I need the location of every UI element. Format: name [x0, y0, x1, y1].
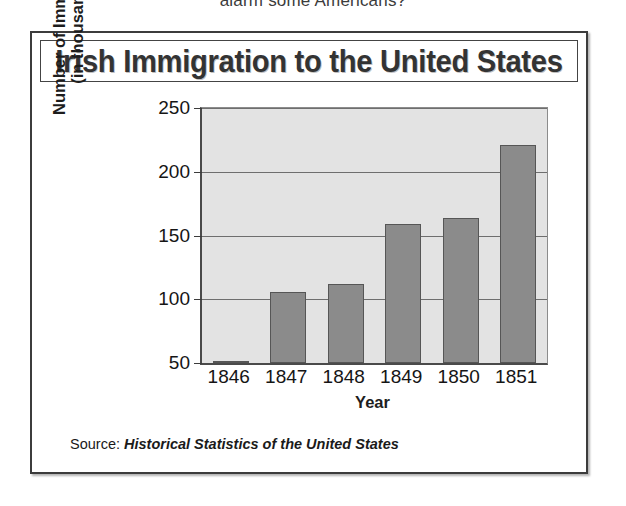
bar [270, 292, 306, 363]
source-title: Historical Statistics of the United Stat… [124, 436, 399, 452]
bar [213, 361, 249, 363]
y-axis-tick-label: 200 [158, 161, 190, 183]
x-axis-title: Year [200, 393, 545, 412]
bar [385, 224, 421, 363]
bar [443, 218, 479, 363]
y-axis-tick-label: 150 [158, 225, 190, 247]
y-axis-tick-mark [194, 172, 202, 173]
y-axis-tick-mark [194, 363, 202, 364]
y-axis-tick-mark [194, 236, 202, 237]
y-axis-tick-label: 50 [169, 352, 190, 374]
bar-series [202, 108, 547, 363]
bar [500, 145, 536, 363]
chart-title: Irish Immigration to the United States [55, 46, 562, 77]
source-label: Source: [70, 436, 120, 452]
clipped-page-text-line: alarm some Americans? [0, 0, 626, 11]
plot-area: 50100150200250 [200, 107, 548, 365]
y-axis-tick-mark [194, 108, 202, 109]
clipped-page-text: alarm some Americans? [0, 0, 626, 11]
x-axis-tick-label: 1847 [265, 366, 307, 388]
x-axis-tick-labels: 184618471848184918501851 [200, 366, 545, 392]
chart-body: Number of Immigrants (in thousands) 5010… [40, 86, 578, 465]
x-axis-tick-label: 1851 [495, 366, 537, 388]
chart-figure: Irish Immigration to the United States N… [30, 31, 588, 474]
x-axis-tick-label: 1850 [438, 366, 480, 388]
plot-area-wrapper: 50100150200250 184618471848184918501851 … [148, 100, 550, 415]
source-note: Source: Historical Statistics of the Uni… [70, 436, 399, 452]
y-axis-tick-label: 250 [158, 97, 190, 119]
bar [328, 284, 364, 363]
x-axis-tick-label: 1848 [323, 366, 365, 388]
x-axis-tick-label: 1849 [380, 366, 422, 388]
y-axis-tick-mark [194, 299, 202, 300]
x-axis-tick-label: 1846 [208, 366, 250, 388]
y-axis-tick-label: 100 [158, 288, 190, 310]
chart-title-bar: Irish Immigration to the United States [40, 40, 578, 82]
